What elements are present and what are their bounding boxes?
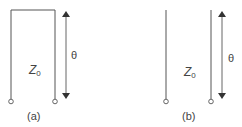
terminal-left-a: [9, 99, 14, 104]
length-label-a: θ: [71, 49, 77, 61]
panel-b: θ Z0 (b): [164, 10, 234, 122]
caption-a: (a): [27, 110, 40, 122]
impedance-label-a: Z0: [28, 63, 41, 78]
caption-b: (b): [182, 110, 195, 122]
panel-a: θ Z0 (a): [9, 10, 77, 122]
terminal-left-b: [164, 99, 169, 104]
shorted-line-a: [11, 10, 55, 99]
transmission-line-diagram: θ Z0 (a) θ Z0 (b): [0, 0, 242, 127]
impedance-label-b: Z0: [183, 65, 196, 80]
length-label-b: θ: [228, 52, 234, 64]
terminal-right-b: [209, 99, 214, 104]
terminal-right-a: [53, 99, 58, 104]
